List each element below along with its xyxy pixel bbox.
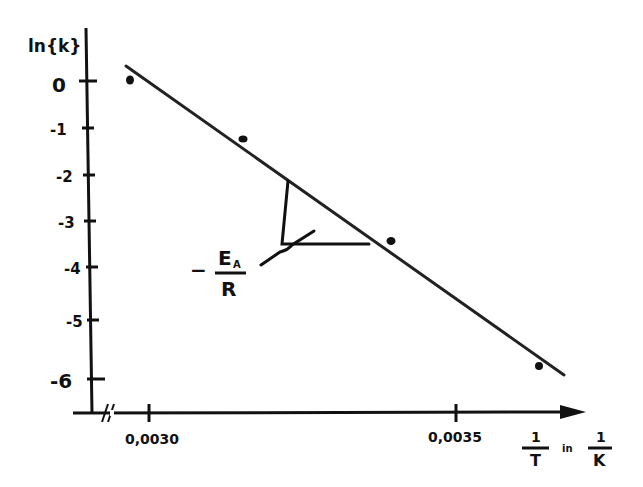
svg-text:0: 0 (52, 73, 66, 97)
slope-annotation: − E A R (190, 246, 246, 301)
data-point (239, 136, 248, 143)
slope-triangle (261, 181, 369, 265)
svg-text:in: in (562, 443, 573, 454)
x-tick-label-0035: 0,0035 (428, 429, 482, 445)
svg-text:-2: -2 (56, 168, 73, 186)
fit-line (126, 66, 564, 375)
svg-text:−: − (190, 258, 207, 282)
svg-text:-1: -1 (50, 121, 67, 139)
y-axis-label: ln{k} (28, 36, 81, 56)
svg-text:1: 1 (531, 429, 541, 445)
x-tick-label-0030: 0,0030 (125, 431, 179, 447)
svg-text:-3: -3 (58, 214, 75, 232)
svg-text:E: E (218, 246, 232, 270)
svg-text:1: 1 (596, 429, 606, 445)
svg-text:A: A (233, 259, 241, 270)
svg-text:-6: -6 (50, 369, 72, 393)
arrhenius-plot: ln{k} 0 -1 -2 -3 -4 -5 -6 0,0030 0,0035 … (0, 0, 643, 487)
svg-text:T: T (530, 451, 541, 470)
data-points (126, 76, 543, 371)
data-point (387, 237, 396, 245)
y-tick-labels: 0 -1 -2 -3 -4 -5 -6 (50, 73, 83, 393)
svg-text:-4: -4 (64, 260, 81, 278)
data-point (535, 362, 543, 370)
svg-text:K: K (593, 451, 606, 470)
x-axis (73, 412, 562, 413)
svg-text:R: R (221, 277, 236, 301)
x-axis-arrow-icon (560, 405, 586, 419)
x-axis-label: 1 T in 1 K (522, 429, 612, 470)
data-point (126, 76, 134, 85)
svg-text:-5: -5 (66, 313, 83, 331)
